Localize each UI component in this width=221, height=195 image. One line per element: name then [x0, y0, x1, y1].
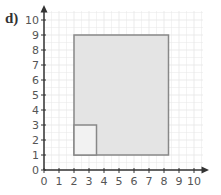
y-axis-arrow-icon: [41, 5, 48, 13]
x-tick-label: 8: [161, 175, 168, 188]
x-tick-label: 7: [146, 175, 153, 188]
y-tick-label: 8: [32, 44, 39, 57]
y-tick-label: 6: [32, 74, 39, 87]
x-tick-label: 10: [187, 175, 201, 188]
x-tick-label: 6: [131, 175, 138, 188]
y-tick-label: 7: [32, 59, 39, 72]
x-axis-arrow-icon: [202, 167, 210, 174]
y-tick-label: 5: [32, 89, 39, 102]
x-tick-label: 1: [56, 175, 63, 188]
x-tick-label: 5: [116, 175, 123, 188]
y-tick-label: 2: [32, 134, 39, 147]
small-square: [74, 125, 97, 155]
x-tick-label: 4: [101, 175, 108, 188]
x-tick-label: 0: [41, 175, 48, 188]
y-tick-label: 0: [32, 164, 39, 177]
coordinate-grid: 012345678910012345678910: [0, 0, 221, 195]
x-tick-label: 3: [86, 175, 93, 188]
y-tick-label: 3: [32, 119, 39, 132]
y-tick-label: 10: [25, 14, 39, 27]
y-tick-label: 1: [32, 149, 39, 162]
x-tick-label: 9: [176, 175, 183, 188]
y-tick-label: 4: [32, 104, 39, 117]
y-tick-label: 9: [32, 29, 39, 42]
x-tick-label: 2: [71, 175, 78, 188]
